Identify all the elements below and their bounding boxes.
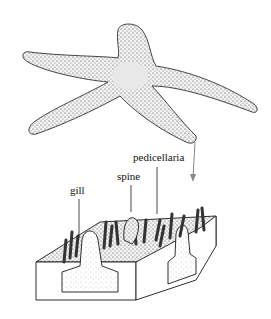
label-spine: spine — [117, 171, 140, 182]
sea-star-illustration — [23, 24, 257, 143]
body-wall-cross-section — [36, 208, 216, 300]
label-gill: gill — [70, 185, 85, 196]
pointer-arrow — [190, 142, 196, 182]
label-pedicellaria: pedicellaria — [133, 152, 184, 163]
